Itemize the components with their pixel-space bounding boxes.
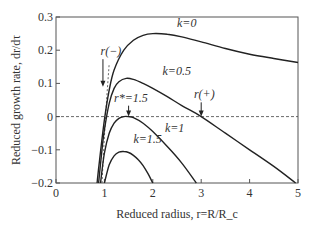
y-tick-label: 0.1 — [38, 76, 53, 90]
y-tick-label: −0.1 — [31, 143, 53, 157]
x-tick-label: 4 — [247, 186, 253, 200]
curve-k0 — [97, 34, 298, 183]
y-tick-label: 0.2 — [38, 43, 53, 57]
x-tick-label: 5 — [295, 186, 301, 200]
growth-rate-chart: 012345−0.2−0.100.10.20.3 k=0k=0.5k=1k=1.… — [0, 0, 315, 227]
annotation-label: k=0.5 — [162, 64, 190, 78]
x-tick-label: 3 — [198, 186, 204, 200]
annotation-label: r*=1.5 — [114, 91, 148, 105]
y-tick-label: 0.3 — [38, 10, 53, 24]
x-axis-label: Reduced radius, r=R/R_c — [116, 207, 238, 221]
chart-svg: 012345−0.2−0.100.10.20.3 k=0k=0.5k=1k=1.… — [0, 0, 315, 227]
axis-ticks: 012345−0.2−0.100.10.20.3 — [31, 10, 301, 200]
annotation-label: r(+) — [194, 87, 215, 101]
annotation-label: r(−) — [101, 44, 122, 58]
x-tick-label: 0 — [53, 186, 59, 200]
x-tick-label: 2 — [150, 186, 156, 200]
annotation-label: k=1.5 — [133, 132, 161, 146]
x-tick-label: 1 — [101, 186, 107, 200]
y-axis-label: Reduced growth rate, dr/dτ — [9, 35, 23, 165]
arrow-down-icon — [126, 111, 131, 117]
data-series — [97, 34, 298, 183]
y-tick-label: 0 — [47, 110, 53, 124]
y-tick-label: −0.2 — [31, 176, 53, 190]
curve-k1-5 — [104, 151, 152, 183]
annotations: k=0k=0.5k=1k=1.5r(−)r*=1.5r(+) — [100, 16, 214, 146]
annotation-label: k=1 — [165, 121, 184, 135]
arrow-down-icon — [100, 81, 105, 87]
annotation-label: k=0 — [177, 16, 196, 30]
